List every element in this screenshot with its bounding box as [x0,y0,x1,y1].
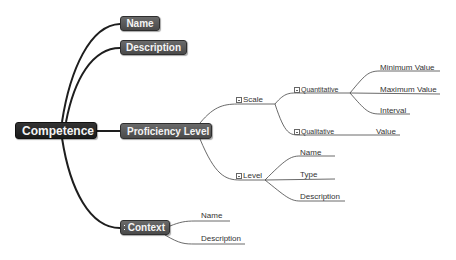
node-quantitative[interactable]: Quantitative [294,85,338,95]
node-context-description[interactable]: Description [201,234,241,244]
node-description[interactable]: Description [120,40,187,55]
node-minimum-value[interactable]: Minimum Value [380,63,435,73]
collapse-toggle-icon[interactable] [236,97,242,103]
node-context-name[interactable]: Name [201,211,222,221]
node-proficiency-level[interactable]: Proficiency Level [120,123,212,139]
node-maximum-value[interactable]: Maximum Value [380,85,437,95]
collapse-toggle-icon[interactable] [124,225,125,230]
collapse-toggle-icon[interactable] [294,87,300,93]
root-node-competence[interactable]: Competence [15,122,97,139]
collapse-toggle-icon[interactable] [294,129,300,135]
node-name[interactable]: Name [120,16,160,31]
node-qualitative[interactable]: Qualitative [294,127,334,137]
node-level[interactable]: Level [236,171,262,181]
node-level-type[interactable]: Type [300,170,317,180]
node-value[interactable]: Value [376,127,396,137]
node-level-name[interactable]: Name [300,148,321,158]
node-interval[interactable]: Interval [380,106,406,116]
node-context[interactable]: Context [120,220,170,235]
collapse-toggle-icon[interactable] [236,173,242,179]
node-level-description[interactable]: Description [300,192,340,202]
node-scale[interactable]: Scale [236,95,263,105]
